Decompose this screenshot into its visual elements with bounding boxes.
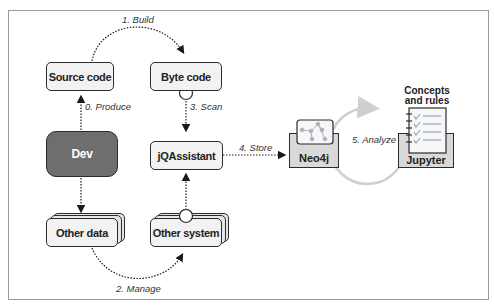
concepts-line2: and rules [395, 96, 459, 106]
concepts-and-rules-label: Concepts and rules [395, 86, 459, 106]
jupyter-label: Jupyter [398, 154, 454, 166]
